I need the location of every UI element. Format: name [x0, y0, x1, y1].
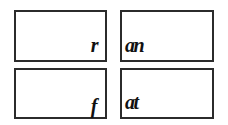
- cell-bottom-left: f: [14, 68, 107, 119]
- fragment-text: f: [91, 96, 96, 116]
- fragment-text: r: [91, 35, 97, 55]
- fragment-text: an: [125, 35, 143, 55]
- fragment-text: at: [125, 92, 138, 112]
- cell-top-right: an: [120, 10, 214, 62]
- cell-bottom-right: at: [120, 68, 214, 119]
- cell-top-left: r: [14, 10, 107, 62]
